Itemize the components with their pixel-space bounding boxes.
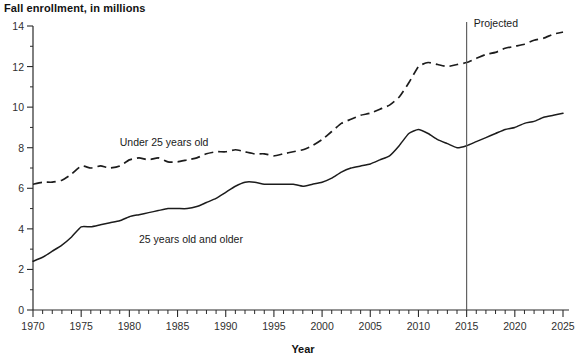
- x-axis-label: Year: [0, 343, 584, 355]
- annotations-group: Projected: [467, 17, 519, 310]
- y-tick-label: 0: [18, 304, 24, 316]
- y-tick-label: 2: [18, 263, 24, 275]
- x-tick-label: 1995: [262, 320, 286, 332]
- ticks-group: [27, 26, 563, 317]
- line-chart-plot: 0246810121419701975198019851990199520002…: [0, 0, 584, 363]
- x-tick-label: 1990: [214, 320, 238, 332]
- x-tick-label: 2005: [359, 320, 383, 332]
- x-tick-label: 2000: [310, 320, 334, 332]
- x-tick-label: 1980: [118, 320, 142, 332]
- series-label-25-and-older: 25 years old and older: [139, 233, 243, 245]
- y-tick-label: 14: [12, 20, 24, 32]
- x-tick-label: 2020: [503, 320, 527, 332]
- tick-labels-group: 0246810121419701975198019851990199520002…: [12, 20, 575, 332]
- y-tick-label: 6: [18, 182, 24, 194]
- x-tick-label: 2010: [407, 320, 431, 332]
- projection-label: Projected: [474, 17, 519, 29]
- y-tick-label: 4: [18, 223, 24, 235]
- y-tick-label: 8: [18, 142, 24, 154]
- y-tick-label: 12: [12, 61, 24, 73]
- x-tick-label: 2015: [455, 320, 479, 332]
- series-line-25-and-older: [33, 113, 563, 261]
- series-line-under-25: [33, 32, 563, 184]
- x-tick-label: 1985: [166, 320, 190, 332]
- x-tick-label: 1970: [21, 320, 45, 332]
- series-group: Under 25 years old25 years old and older: [33, 32, 563, 261]
- chart-container: Fall enrollment, in millions 02468101214…: [0, 0, 584, 363]
- series-label-under-25: Under 25 years old: [120, 136, 209, 148]
- x-tick-label: 2025: [551, 320, 575, 332]
- x-tick-label: 1975: [70, 320, 94, 332]
- y-tick-label: 10: [12, 101, 24, 113]
